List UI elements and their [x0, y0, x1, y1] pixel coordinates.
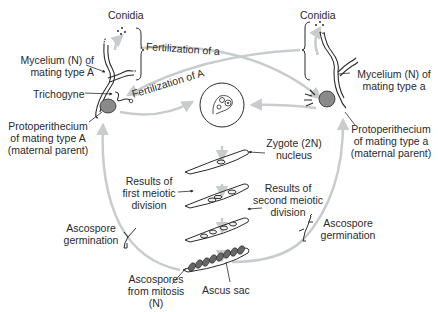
right-conidia-dots [315, 21, 324, 26]
right-mycelium-label: Mycelium (N) of mating type a [352, 68, 436, 92]
right-germination-label: Ascospore germination [318, 217, 378, 241]
left-conidia-arrow [115, 36, 122, 50]
ascospores-label: Ascospores from mitosis (N) [126, 273, 186, 309]
trichogyne-label: Trichogyne [33, 88, 85, 100]
second-meiotic-label: Results of second meiotic division [253, 182, 323, 218]
left-to-zygote-arrow [120, 102, 192, 114]
fertilization-circle [200, 83, 244, 127]
zygote-label: Zygote (2N) nucleus [264, 137, 324, 161]
right-conidia-label: Conidia [300, 9, 336, 21]
left-germination-label: Ascospore germination [62, 222, 120, 246]
left-mycelium-label: Mycelium (N) of mating type A [18, 54, 94, 78]
left-conidia-label: Conidia [108, 9, 144, 21]
first-meiotic-label: Results of first meiotic division [120, 175, 178, 211]
right-conidia-arrow [315, 28, 320, 55]
ascus-sac-label: Ascus sac [202, 284, 250, 296]
left-protoperithecium-label: Protoperithecium of mating type A (mater… [5, 120, 91, 156]
left-conidia-dots [117, 27, 126, 35]
left-protoperithecium [100, 99, 116, 113]
second-meiotic-ascus [185, 218, 249, 242]
right-protoperithecium-label: Protoperithecium of mating type a (mater… [346, 123, 436, 159]
right-protoperithecium [319, 91, 335, 107]
